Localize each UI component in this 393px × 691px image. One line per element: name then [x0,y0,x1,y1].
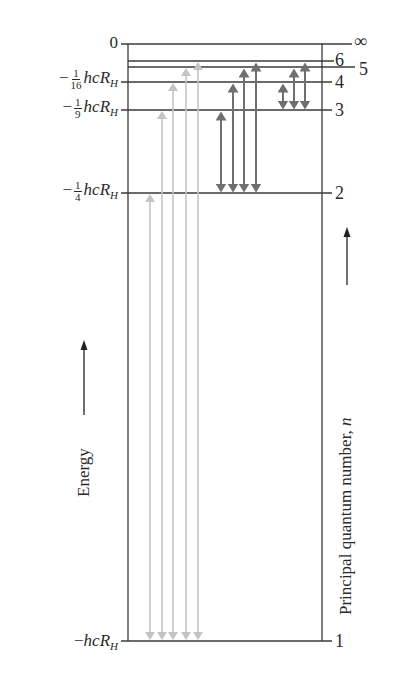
minus-sign: − [63,180,73,199]
subscript: H [110,189,118,201]
symbol: hcR [84,68,110,87]
n-label-6: 6 [335,51,344,69]
energy-label-n2: −14hcRH [0,180,118,203]
quantum-axis-title-text: Principal quantum number, [336,426,355,615]
balmer-series-arrows [221,67,256,188]
n-label-4: 4 [335,73,344,91]
minus-sign: − [74,631,84,650]
energy-arrowhead-icon [81,340,88,350]
subscript: H [110,640,118,652]
quantum-axis-title: Principal quantum number, n [336,417,356,615]
fraction: 116 [71,68,82,91]
quantum-axis-variable: n [336,417,355,426]
n-label-2: 2 [335,184,344,202]
minus-sign: − [63,97,73,116]
n-label-1: 1 [335,632,344,650]
energy-label-n4: −116hcRH [0,68,118,91]
fraction: 14 [74,180,82,203]
fraction: 19 [74,97,82,120]
minus-sign: − [59,68,69,87]
paschen-series-arrows [283,67,305,105]
energy-label-zero: 0 [0,34,118,51]
symbol: hcR [84,97,110,116]
lyman-series-arrows [150,66,198,636]
n-label-infinity: ∞ [354,32,367,50]
quantum-arrowhead-icon [344,227,351,237]
energy-label-zero-text: 0 [110,33,119,52]
fraction-denominator: 9 [75,109,81,120]
subscript: H [110,106,118,118]
energy-label-n1: −hcRH [0,632,118,652]
fraction-denominator: 16 [71,80,82,91]
fraction-denominator: 4 [75,192,81,203]
n-label-3: 3 [335,101,344,119]
symbol: hcR [84,180,110,199]
n-label-5: 5 [359,60,368,78]
symbol: hcR [84,631,110,650]
energy-label-n3: −19hcRH [0,97,118,120]
subscript: H [110,77,118,89]
energy-axis-title: Energy [74,448,94,497]
